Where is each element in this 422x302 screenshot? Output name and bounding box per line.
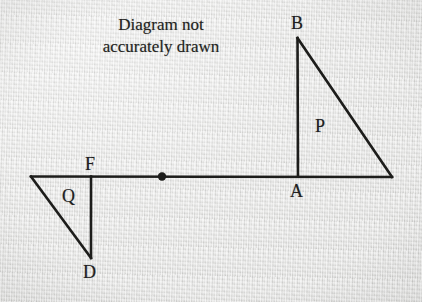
triangle-p-hypotenuse <box>298 38 393 177</box>
note-line-1: Diagram not <box>86 14 236 36</box>
vertex-label-b: B <box>291 14 303 32</box>
triangle-p-vertical-leg <box>298 38 299 177</box>
vertex-label-f: F <box>85 155 95 173</box>
note-line-2: accurately drawn <box>86 36 236 58</box>
midpoint-dot-marker <box>158 172 166 180</box>
region-label-q: Q <box>62 187 75 205</box>
baseline-segment <box>31 177 392 178</box>
diagram-page: Diagram not accurately drawn B A P F Q D <box>0 0 422 302</box>
triangle-q-hypotenuse <box>31 177 91 259</box>
vertex-label-a: A <box>290 182 303 200</box>
not-to-scale-note: Diagram not accurately drawn <box>86 14 236 58</box>
vertex-label-d: D <box>83 263 96 281</box>
region-label-p: P <box>315 117 325 135</box>
